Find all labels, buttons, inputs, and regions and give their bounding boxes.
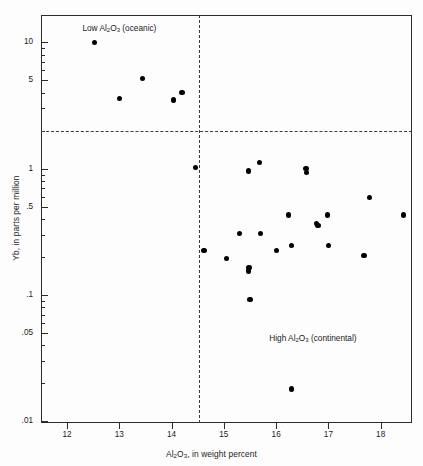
y-axis-minor-tick <box>41 108 45 109</box>
y-axis-minor-tick <box>41 361 45 362</box>
y-axis-minor-tick <box>41 383 45 384</box>
data-point <box>179 90 184 95</box>
y-axis-minor-tick <box>41 323 45 324</box>
annotation-continental: High Al2O3 (continental) <box>269 333 356 343</box>
x-axis-tick <box>276 423 277 429</box>
y-axis-tick-label: .01 <box>3 416 33 425</box>
data-point <box>286 212 291 217</box>
x-axis-tick <box>67 423 68 429</box>
y-axis-minor-tick <box>41 62 45 63</box>
y-axis-minor-tick <box>41 235 45 236</box>
x-axis-tick <box>172 423 173 429</box>
y-axis-minor-tick <box>41 55 45 56</box>
y-axis-minor-tick <box>41 181 45 182</box>
data-point <box>246 265 251 270</box>
x-axis-tick <box>381 423 382 429</box>
y-axis-tick-label: 10 <box>3 37 33 46</box>
y-axis-minor-tick <box>41 188 45 189</box>
y-axis-tick <box>41 42 48 43</box>
data-point <box>361 253 366 258</box>
y-axis-minor-tick <box>41 257 45 258</box>
y-axis-minor-tick <box>41 219 45 220</box>
y-axis-minor-tick <box>41 315 45 316</box>
y-axis-minor-tick <box>41 197 45 198</box>
annotation-oceanic: Low Al2O3 (oceanic) <box>82 23 156 33</box>
y-axis-minor-tick <box>41 93 45 94</box>
data-point <box>224 256 229 261</box>
data-point <box>315 223 320 228</box>
data-point <box>171 97 176 102</box>
y-axis-minor-tick <box>41 175 45 176</box>
x-axis-tick <box>119 423 120 429</box>
data-point <box>401 212 406 217</box>
y-axis-tick <box>41 169 48 170</box>
x-axis-tick-label: 17 <box>313 430 343 439</box>
y-axis-minor-tick <box>41 307 45 308</box>
x-axis-tick-label: 12 <box>52 430 82 439</box>
horizontal-divider-line <box>41 131 412 132</box>
x-axis-tick-label: 15 <box>209 430 239 439</box>
x-axis-tick-label: 14 <box>157 430 187 439</box>
data-point <box>246 168 251 173</box>
plot-frame <box>41 15 412 423</box>
data-point <box>325 212 330 217</box>
x-axis-tick-label: 13 <box>104 430 134 439</box>
x-axis-title: Al2O3, in weight percent <box>0 449 423 459</box>
vertical-divider-line <box>199 15 200 423</box>
data-point <box>247 297 252 302</box>
scatter-plot-figure: 1051.5.1.05.0112131415161718 Low Al2O3 (… <box>0 0 423 466</box>
y-axis-minor-tick <box>41 333 45 334</box>
x-axis-tick-label: 18 <box>366 430 396 439</box>
x-axis-tick <box>224 423 225 429</box>
y-axis-tick-label: .1 <box>3 290 33 299</box>
y-axis-tick-label: 5 <box>3 75 33 84</box>
y-axis-minor-tick <box>41 207 45 208</box>
y-axis-tick <box>41 295 48 296</box>
y-axis-minor-tick <box>41 80 45 81</box>
x-axis-tick-label: 16 <box>261 430 291 439</box>
y-axis-tick-label: .05 <box>3 328 33 337</box>
data-point <box>367 195 372 200</box>
y-axis-minor-tick <box>41 70 45 71</box>
data-point <box>92 40 97 45</box>
y-axis-minor-tick <box>41 48 45 49</box>
y-axis-tick <box>41 421 48 422</box>
x-axis-tick <box>328 423 329 429</box>
y-axis-minor-tick <box>41 301 45 302</box>
data-point <box>117 96 122 101</box>
data-point <box>193 165 198 170</box>
y-axis-title: Yb, in parts per million <box>11 148 21 288</box>
data-point <box>274 248 279 253</box>
y-axis-minor-tick <box>41 345 45 346</box>
data-point <box>201 248 206 253</box>
